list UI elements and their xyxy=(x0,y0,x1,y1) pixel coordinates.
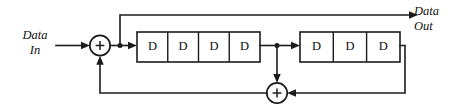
arrow-head-feedback-adder-right xyxy=(287,89,296,96)
arrow-head-input xyxy=(81,42,90,49)
data-in-label: Data In xyxy=(12,28,58,58)
arrow-head-feedback-adder-top xyxy=(273,74,280,83)
data-in-label-line1: Data xyxy=(12,28,58,43)
input-wire xyxy=(56,42,90,49)
register-block-1: D D D D xyxy=(137,32,260,62)
lfsr-block-diagram: D D D D D D D xyxy=(0,0,466,111)
mid-tap-down-wire xyxy=(273,46,280,84)
mid-tap-to-register2-wire xyxy=(277,42,300,49)
register1-cell-0-label: D xyxy=(148,39,157,53)
register1-cell-3-label: D xyxy=(240,39,249,53)
arrow-head-input-adder-bottom xyxy=(96,56,103,65)
data-out-label-line1: Data xyxy=(414,4,466,19)
feedback-adder xyxy=(267,83,287,103)
register2-cell-2-label: D xyxy=(379,39,388,53)
register2-cell-1-label: D xyxy=(345,39,354,53)
register1-cell-2-label: D xyxy=(209,39,218,53)
input-adder xyxy=(90,35,110,55)
register2-cell-0-label: D xyxy=(312,39,321,53)
data-out-label: Data Out xyxy=(414,4,466,34)
arrow-head-register1 xyxy=(128,42,137,49)
data-out-label-line2: Out xyxy=(414,19,466,34)
data-in-label-line2: In xyxy=(12,43,58,58)
register1-cell-1-label: D xyxy=(179,39,188,53)
diagram-canvas: D D D D D D D xyxy=(0,0,466,111)
arrow-head-register2 xyxy=(291,42,300,49)
register-block-2: D D D xyxy=(300,32,400,62)
branch-to-register1-wire xyxy=(120,42,137,49)
